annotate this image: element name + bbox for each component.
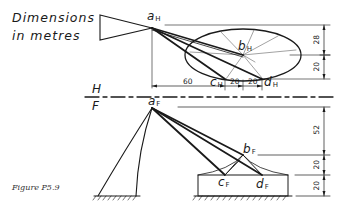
title-line-2: in metres bbox=[12, 30, 80, 43]
dim-elev-52: 52 bbox=[313, 125, 321, 135]
point-c-elevation: cF bbox=[218, 176, 230, 189]
figure-caption: Figure P5.9 bbox=[12, 184, 60, 192]
plane-h-label: H bbox=[92, 83, 101, 95]
title-line-1: Dimensions bbox=[12, 12, 95, 25]
point-d-plan: dH bbox=[264, 76, 278, 89]
point-c-plan: cH bbox=[210, 76, 223, 89]
dim-plan-20v: 20 bbox=[313, 62, 321, 72]
point-a-elevation: aF bbox=[148, 95, 160, 108]
plane-f-label: F bbox=[92, 100, 99, 112]
point-b-elevation: bF bbox=[243, 143, 256, 156]
dim-plan-28: 28 bbox=[313, 35, 321, 45]
elevation-base bbox=[198, 175, 288, 196]
point-d-elevation: dF bbox=[256, 178, 269, 191]
point-b-plan: bH bbox=[238, 40, 252, 53]
dim-elev-20a: 20 bbox=[313, 160, 321, 170]
dim-elev-20b: 20 bbox=[313, 181, 321, 191]
point-a-plan: aH bbox=[147, 10, 161, 23]
dim-plan-20a: 20 bbox=[230, 78, 240, 86]
plan-flag bbox=[100, 15, 152, 40]
dim-plan-60: 60 bbox=[183, 78, 193, 86]
dim-plan-20b: 20 bbox=[248, 78, 258, 86]
